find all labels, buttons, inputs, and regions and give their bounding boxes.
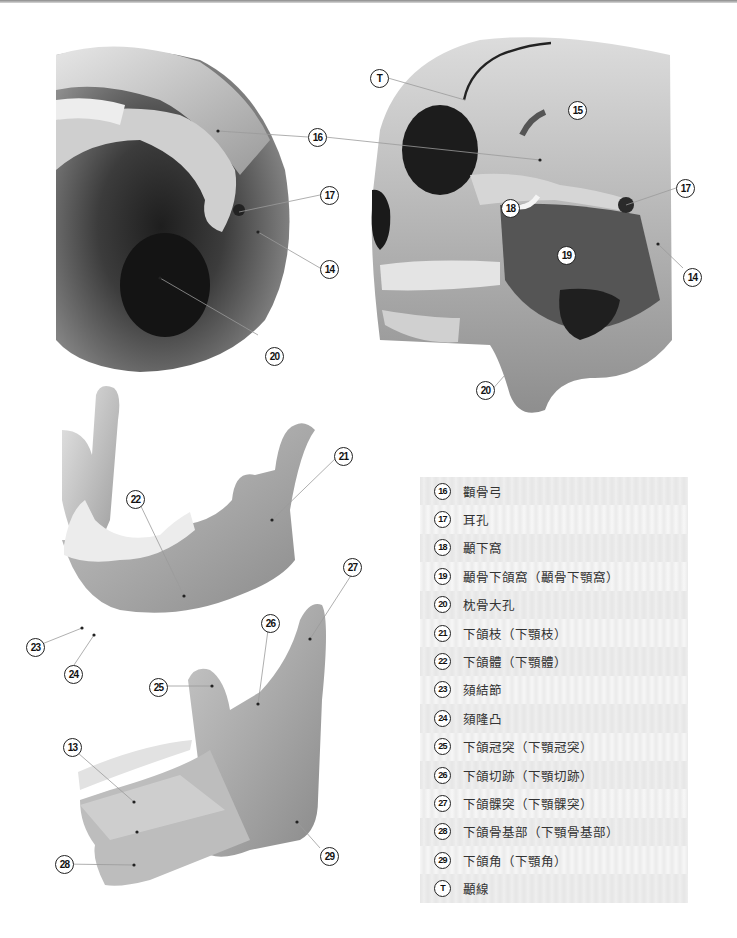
callout-27: 27 xyxy=(343,558,362,577)
legend-term: 下頜體（下顎體） xyxy=(463,652,567,671)
callout-22: 22 xyxy=(126,490,145,509)
legend-number: 21 xyxy=(434,625,451,642)
legend-number: 24 xyxy=(434,710,451,727)
legend-row: T顳線 xyxy=(420,874,688,902)
legend-term: 耳孔 xyxy=(463,510,489,529)
legend-number: 16 xyxy=(434,483,451,500)
legend-row: 22下頜體（下顎體） xyxy=(420,647,688,675)
mandible-anterior-view xyxy=(62,386,315,613)
callout-29: 29 xyxy=(320,847,339,866)
callout-14-lateral: 14 xyxy=(683,268,702,287)
legend-row: 20枕骨大孔 xyxy=(420,591,688,619)
legend-term: 下頜枝（下顎枝） xyxy=(463,624,567,643)
callout-18: 18 xyxy=(501,199,520,218)
foramen-magnum-shape xyxy=(120,233,210,337)
legend-term: 下頜冠突（下顎冠突） xyxy=(463,737,593,756)
legend-row: 19顳骨下頜窩（顳骨下顎窩） xyxy=(420,562,688,590)
orbit-shape xyxy=(402,105,478,195)
callout-23: 23 xyxy=(26,638,45,657)
legend-term: 顳下窩 xyxy=(463,538,502,557)
legend-row: 25下頜冠突（下顎冠突） xyxy=(420,733,688,761)
callout-26: 26 xyxy=(261,614,280,633)
legend-term: 下頜髁突（下顎髁突） xyxy=(463,794,593,813)
callout-13: 13 xyxy=(63,738,82,757)
callout-24: 24 xyxy=(64,665,83,684)
legend-row: 28下頜骨基部（下顎骨基部） xyxy=(420,818,688,846)
legend-number: 18 xyxy=(434,539,451,556)
mandible-lateral-view xyxy=(78,604,326,886)
legend-number: 29 xyxy=(434,852,451,869)
callout-17: 17 xyxy=(320,186,339,205)
legend-term: 顳骨下頜窩（顳骨下顎窩） xyxy=(463,567,619,586)
skull-inferior-view xyxy=(56,46,290,372)
legend-row: 16顴骨弓 xyxy=(420,477,688,505)
legend-number: 28 xyxy=(434,823,451,840)
ear-canal-shape xyxy=(233,204,245,216)
legend-number: T xyxy=(434,880,451,897)
skull-lateral-view xyxy=(372,37,672,413)
legend-number: 17 xyxy=(434,511,451,528)
legend-term: 頦結節 xyxy=(463,680,502,699)
legend-row: 27下頜髁突（下顎髁突） xyxy=(420,789,688,817)
callout-25: 25 xyxy=(149,678,168,697)
legend-row: 26下頜切跡（下顎切跡） xyxy=(420,761,688,789)
callout-20: 20 xyxy=(265,347,284,366)
callout-19: 19 xyxy=(557,246,576,265)
legend-term: 枕骨大孔 xyxy=(463,595,515,614)
legend-number: 22 xyxy=(434,653,451,670)
legend-row: 21下頜枝（下顎枝） xyxy=(420,619,688,647)
legend-term: 頦隆凸 xyxy=(463,709,502,728)
callout-16: 16 xyxy=(308,128,327,147)
callout-20-lateral: 20 xyxy=(476,381,495,400)
legend-number: 27 xyxy=(434,795,451,812)
legend-number: 26 xyxy=(434,767,451,784)
callout-temporal-line: T xyxy=(370,69,389,88)
legend-row: 17耳孔 xyxy=(420,505,688,533)
callout-17-lateral: 17 xyxy=(676,179,695,198)
legend-number: 20 xyxy=(434,596,451,613)
callout-28: 28 xyxy=(55,855,74,874)
legend-term: 顴骨弓 xyxy=(463,482,502,501)
legend-row: 18顳下窩 xyxy=(420,534,688,562)
legend-row: 29下頜角（下顎角） xyxy=(420,846,688,874)
legend-term: 顳線 xyxy=(463,879,489,898)
legend-number: 23 xyxy=(434,681,451,698)
legend-row: 24頦隆凸 xyxy=(420,704,688,732)
legend-term: 下頜骨基部（下顎骨基部） xyxy=(463,822,619,841)
legend-number: 19 xyxy=(434,568,451,585)
legend-number: 25 xyxy=(434,738,451,755)
maxilla-teeth-upper xyxy=(380,261,500,291)
legend-term: 下頜切跡（下顎切跡） xyxy=(463,766,593,785)
legend-table: 16顴骨弓 17耳孔 18顳下窩 19顳骨下頜窩（顳骨下顎窩） 20枕骨大孔 2… xyxy=(420,477,688,903)
callout-15: 15 xyxy=(568,101,587,120)
callout-21: 21 xyxy=(334,447,353,466)
legend-term: 下頜角（下顎角） xyxy=(463,851,567,870)
callout-14: 14 xyxy=(320,260,339,279)
legend-row: 23頦結節 xyxy=(420,676,688,704)
